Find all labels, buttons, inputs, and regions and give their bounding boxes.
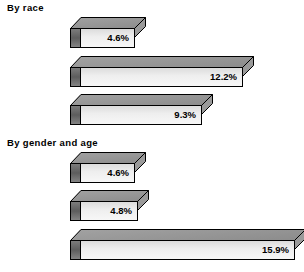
bar-value-label: 4.6%: [93, 33, 129, 43]
bar-left-cap: [70, 240, 81, 260]
bar-value-label: 12.2%: [201, 72, 237, 82]
bar-value-label: 4.8%: [96, 206, 132, 216]
bar-left-cap: [70, 163, 81, 183]
bar-left-cap: [70, 105, 81, 125]
bar-right-cap: [294, 229, 304, 261]
bar-right-cap: [134, 152, 146, 184]
section-title-by-gender-and-age: By gender and age: [7, 137, 98, 148]
section-title-by-race: By race: [7, 2, 44, 13]
bar-left-cap: [70, 201, 81, 221]
bar-value-label: 15.9%: [253, 245, 289, 255]
bar-value-label: 4.6%: [93, 168, 129, 178]
bar-left-cap: [70, 28, 81, 48]
bar-right-cap: [137, 190, 149, 222]
bar-right-cap: [201, 94, 213, 126]
bar-value-label: 9.3%: [160, 110, 196, 120]
bar-chart: By raceWhite4.6%Black12.2%Hispanic9.3%By…: [0, 0, 304, 272]
bar-right-cap: [134, 17, 146, 49]
bar-left-cap: [70, 67, 81, 87]
bar-right-cap: [242, 56, 254, 88]
